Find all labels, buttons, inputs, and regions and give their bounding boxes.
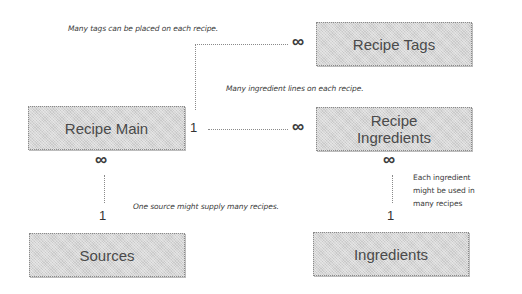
connector-ingredients: [392, 175, 393, 203]
cardinality-one-ingredients: 1: [387, 209, 394, 222]
connector-tags-horizontal: [195, 44, 288, 45]
entity-recipe-ingredients[interactable]: Recipe Ingredients: [316, 107, 472, 151]
connector-sources: [104, 175, 105, 203]
note-ingredient-lines: Many ingredient lines on each recipe.: [226, 84, 363, 93]
entity-sources-label: Sources: [79, 247, 134, 264]
connector-ingredient-lines: [208, 129, 288, 130]
note-ingredients-line-3: many recipes: [413, 197, 475, 210]
cardinality-many-recipe-main: ∞: [95, 153, 106, 166]
connector-tags-vertical: [195, 44, 196, 110]
entity-sources[interactable]: Sources: [29, 233, 185, 277]
er-diagram: Many tags can be placed on each recipe. …: [0, 0, 522, 294]
entity-recipe-main[interactable]: Recipe Main: [28, 106, 185, 150]
cardinality-one-sources: 1: [99, 209, 106, 222]
entity-ingredients-label: Ingredients: [354, 246, 428, 263]
note-ingredients-line-2: might be used in: [413, 184, 475, 197]
entity-recipe-tags[interactable]: Recipe Tags: [316, 22, 472, 66]
cardinality-many-ingredients-link: ∞: [383, 153, 394, 166]
cardinality-many-tags: ∞: [292, 35, 303, 48]
entity-recipe-ingredients-label-1: Recipe: [357, 112, 431, 129]
note-sources: One source might supply many recipes.: [133, 202, 279, 211]
entity-recipe-ingredients-label-2: Ingredients: [357, 129, 431, 146]
note-ingredients: Each ingredient might be used in many re…: [413, 171, 475, 210]
note-ingredients-line-1: Each ingredient: [413, 171, 475, 184]
note-tags: Many tags can be placed on each recipe.: [68, 24, 218, 33]
entity-ingredients[interactable]: Ingredients: [313, 232, 469, 276]
cardinality-many-recipe-ingredients: ∞: [292, 120, 303, 133]
entity-recipe-main-label: Recipe Main: [65, 120, 148, 137]
cardinality-one-recipe-main: 1: [190, 121, 197, 134]
entity-recipe-tags-label: Recipe Tags: [353, 36, 435, 53]
